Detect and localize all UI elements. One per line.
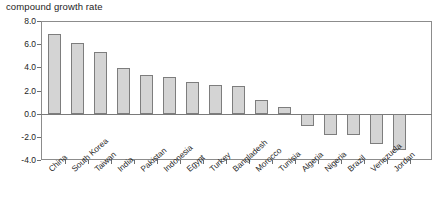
chart-title: compound growth rate xyxy=(6,1,103,12)
y-tick-label: 0.0 xyxy=(0,109,36,119)
bar xyxy=(186,82,199,114)
bar xyxy=(370,114,383,144)
y-tick-label: 2.0 xyxy=(0,86,36,96)
bar xyxy=(117,68,130,113)
bar xyxy=(301,114,314,127)
y-tick-label: -2.0 xyxy=(0,132,36,142)
bar xyxy=(278,107,291,114)
bar xyxy=(324,114,337,135)
bar xyxy=(163,77,176,114)
bar xyxy=(94,52,107,113)
compound-growth-rate-chart: compound growth rate 8.06.04.02.00.0-2.0… xyxy=(0,0,441,214)
y-tick-label: 4.0 xyxy=(0,62,36,72)
bar xyxy=(140,75,153,114)
bar xyxy=(347,114,360,135)
y-tick-label: 8.0 xyxy=(0,16,36,26)
y-tick-label: -4.0 xyxy=(0,155,36,165)
y-tick-mark xyxy=(37,160,41,161)
y-tick-label: 6.0 xyxy=(0,39,36,49)
bar xyxy=(255,100,268,114)
bar xyxy=(48,34,61,114)
bar xyxy=(71,43,84,114)
bar xyxy=(232,86,245,114)
bar xyxy=(209,85,222,113)
